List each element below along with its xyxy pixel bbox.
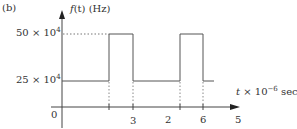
frequency-chart (0, 0, 297, 129)
y-tick-label-low: 25 × 104 (16, 75, 61, 85)
x-axis-arrow-icon (230, 104, 240, 110)
x-tick-label-2: 2 (165, 115, 171, 125)
y-tick-label-high: 50 × 104 (16, 28, 61, 38)
y-axis-label: f(t) (Hz) (70, 4, 111, 14)
x-tick-label-6: 6 (200, 115, 206, 125)
frequency-waveform (62, 34, 214, 81)
origin-label: 0 (51, 110, 57, 120)
panel-label: (b) (2, 3, 16, 13)
x-tick-label-5: 5 (235, 115, 241, 125)
y-axis-arrow-icon (59, 10, 65, 19)
x-axis-label: t × 10−6 sec (236, 87, 297, 97)
x-tick-label-3: 3 (130, 116, 136, 126)
y-axis-label-rest: (t) (Hz) (74, 3, 111, 14)
